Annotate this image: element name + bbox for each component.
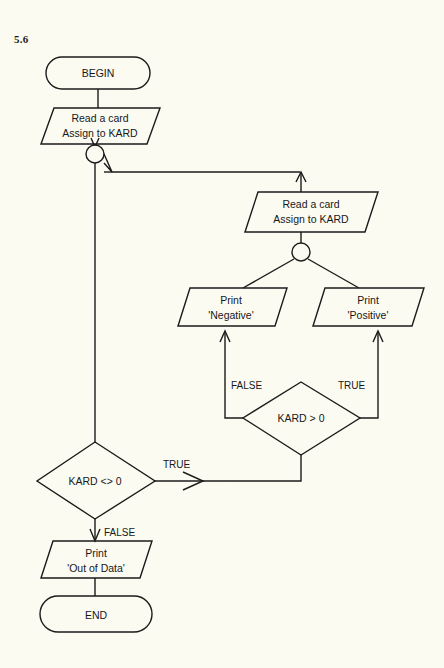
print-out-of-data-line1: Print (85, 547, 107, 559)
connector-2-shape (292, 243, 310, 261)
print-negative-line2: 'Negative' (208, 309, 253, 321)
node-read-card-1: Read a card Assign to KARD (41, 108, 160, 144)
edge-kard-gt-false: FALSE (220, 331, 262, 418)
begin-label: BEGIN (82, 67, 115, 79)
connector-1-shape (86, 145, 104, 163)
edge-decision-gt-bottom-to-true-line (230, 455, 301, 481)
node-print-positive: Print 'Positive' (313, 288, 424, 326)
node-print-out-of-data: Print 'Out of Data' (41, 541, 152, 578)
edge-connector2-to-print-negative (243, 259, 294, 288)
print-positive-line1: Print (357, 294, 379, 306)
edge-label-kard-gt-true: TRUE (338, 380, 366, 391)
read-card-2-line2: Assign to KARD (273, 213, 349, 225)
edge-return-to-connector1 (104, 154, 300, 172)
read-card-1-line2: Assign to KARD (62, 127, 138, 139)
edge-label-kard-gt-false: FALSE (231, 380, 262, 391)
flowchart-diagram: BEGIN Read a card Assign to KARD Read a … (0, 0, 444, 668)
decision-kard-gt-0-label: KARD > 0 (278, 412, 325, 424)
node-end: END (40, 596, 152, 632)
node-decision-kard-ne-0: KARD <> 0 (37, 442, 155, 519)
edge-label-kard-ne-true: TRUE (163, 459, 191, 470)
edge-kard-ne-false: FALSE (90, 519, 135, 541)
node-connector-2 (292, 243, 310, 261)
node-begin: BEGIN (46, 57, 150, 89)
print-out-of-data-line2: 'Out of Data' (67, 562, 125, 574)
end-label: END (85, 609, 108, 621)
edge-read2-to-return (296, 172, 306, 192)
node-read-card-2: Read a card Assign to KARD (245, 192, 378, 232)
node-connector-1 (86, 145, 104, 163)
edge-kard-ne-true: TRUE (155, 459, 230, 490)
node-decision-kard-gt-0: KARD > 0 (243, 382, 360, 455)
edge-kard-gt-true: TRUE (338, 331, 383, 418)
read-card-2-line1: Read a card (282, 198, 339, 210)
edge-label-kard-ne-false: FALSE (104, 527, 135, 538)
read-card-1-line1: Read a card (71, 112, 128, 124)
node-print-negative: Print 'Negative' (178, 288, 287, 326)
print-negative-line1: Print (220, 294, 242, 306)
print-positive-line2: 'Positive' (348, 309, 389, 321)
edge-connector2-to-print-positive (308, 259, 359, 288)
decision-kard-ne-0-label: KARD <> 0 (68, 475, 121, 487)
